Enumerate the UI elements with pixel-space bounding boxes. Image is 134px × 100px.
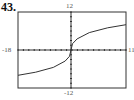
graph bbox=[0, 0, 134, 100]
axis-ticks bbox=[18, 12, 126, 88]
